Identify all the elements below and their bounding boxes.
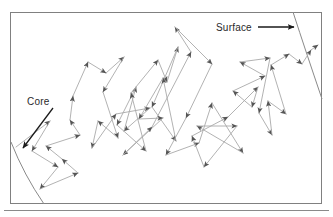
- random-walk-figure: Core Surface: [0, 0, 333, 217]
- core-label: Core: [27, 96, 50, 107]
- surface-label: Surface: [216, 22, 252, 33]
- figure-canvas: Core Surface: [0, 0, 333, 217]
